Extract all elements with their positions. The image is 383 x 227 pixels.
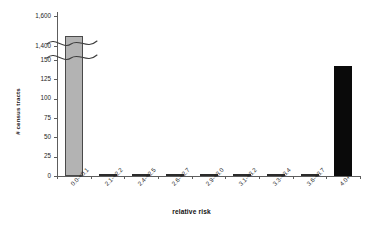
x-tick-mark	[360, 176, 361, 179]
bar	[334, 66, 352, 176]
y-tick-label: 100	[17, 95, 51, 101]
y-tick-label: 75	[17, 115, 51, 121]
y-tick-label: 1,400	[17, 43, 51, 49]
x-tick-mark	[293, 176, 294, 179]
x-tick-mark	[326, 176, 327, 179]
y-tick-mark	[54, 46, 57, 47]
y-tick-label: 50	[17, 134, 51, 140]
y-tick-label: 125	[17, 76, 51, 82]
x-axis-title: relative risk	[0, 208, 383, 215]
y-tick-mark	[54, 118, 57, 119]
y-axis-line	[57, 12, 58, 176]
x-tick-mark	[91, 176, 92, 179]
x-tick-mark	[192, 176, 193, 179]
x-tick-mark	[124, 176, 125, 179]
bar	[65, 36, 83, 177]
x-tick-mark	[57, 176, 58, 179]
y-tick-label: 0	[17, 173, 51, 179]
y-tick-label: 150	[17, 57, 51, 63]
y-tick-mark	[54, 60, 57, 61]
y-tick-mark	[54, 99, 57, 100]
y-tick-label: 1,600	[17, 13, 51, 19]
y-tick-mark	[54, 79, 57, 80]
y-tick-mark	[54, 157, 57, 158]
x-tick-mark	[225, 176, 226, 179]
x-tick-mark	[158, 176, 159, 179]
plot-area: 02550751001251501,4001,600 0.0-<0.12.1-<…	[57, 12, 360, 176]
y-tick-label: 25	[17, 153, 51, 159]
y-tick-mark	[54, 137, 57, 138]
y-tick-mark	[54, 16, 57, 17]
bar-chart: # census tracts 02550751001251501,4001,6…	[0, 0, 383, 227]
x-tick-mark	[259, 176, 260, 179]
